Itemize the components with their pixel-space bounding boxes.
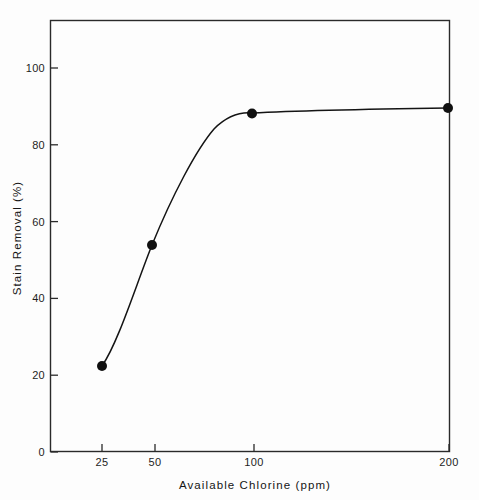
x-tick-label-50: 50 (149, 456, 162, 468)
y-tick-label-60: 60 (32, 216, 45, 228)
y-axis-title: Stain Removal (%) (11, 181, 23, 296)
y-axis-tick-labels: 0 20 40 60 80 100 (26, 62, 45, 458)
x-axis-tick-labels: 25 50 100 200 (96, 456, 459, 468)
x-axis-ticks (102, 444, 449, 452)
chart-figure: 0 20 40 60 80 100 25 50 100 200 Availabl… (0, 0, 479, 500)
y-tick-label-20: 20 (32, 369, 45, 381)
data-series-markers (97, 103, 453, 371)
data-series-line (102, 108, 448, 366)
y-tick-label-100: 100 (26, 62, 45, 74)
x-tick-label-200: 200 (439, 456, 458, 468)
x-tick-label-25: 25 (96, 456, 109, 468)
data-point-200 (443, 103, 453, 113)
plot-frame (51, 21, 450, 452)
y-axis-ticks (51, 68, 59, 452)
x-axis-title: Available Chlorine (ppm) (179, 479, 331, 491)
x-tick-label-100: 100 (244, 456, 263, 468)
data-point-25 (97, 361, 107, 371)
y-tick-label-0: 0 (39, 446, 45, 458)
chart-plot-area: 0 20 40 60 80 100 25 50 100 200 Availabl… (0, 0, 479, 500)
y-tick-label-80: 80 (32, 139, 45, 151)
data-point-50 (147, 240, 157, 250)
y-tick-label-40: 40 (32, 292, 45, 304)
data-point-100 (247, 109, 257, 119)
